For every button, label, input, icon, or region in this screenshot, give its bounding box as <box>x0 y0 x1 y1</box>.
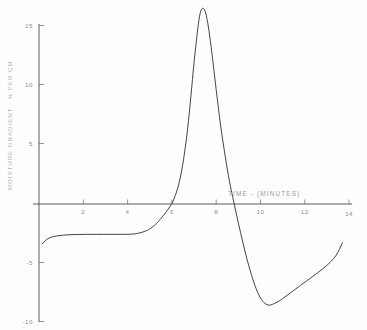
y-tick-label-10: 10 <box>25 81 33 88</box>
x-tick-label-14: 14 <box>345 210 353 217</box>
y-axis-title: MOISTURE GRADIENT - % PER CM <box>6 61 13 190</box>
x-tick-label-2: 2 <box>81 208 85 215</box>
x-tick-label-12: 12 <box>301 208 309 215</box>
x-axis-title: TIME - (MINUTES) <box>228 190 300 198</box>
y-tick-label-15: 15 <box>25 22 33 29</box>
x-tick-label-6: 6 <box>170 208 174 215</box>
x-tick-label-10: 10 <box>257 208 265 215</box>
y-tick-label-neg10: -10 <box>23 318 34 325</box>
y-tick-label-neg5: -5 <box>26 259 33 266</box>
line-chart-canvas: 15 10 5 -5 -10 2 4 6 8 10 12 14 TIME - <box>0 0 367 330</box>
x-tick-label-8: 8 <box>214 208 218 215</box>
y-tick-label-5: 5 <box>29 140 33 147</box>
x-tick-label-4: 4 <box>126 208 130 215</box>
chart-figure: 15 10 5 -5 -10 2 4 6 8 10 12 14 TIME - <box>0 0 367 330</box>
chart-background <box>0 0 367 330</box>
